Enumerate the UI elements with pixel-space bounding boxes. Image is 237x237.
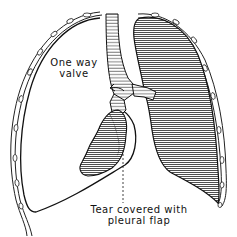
one-way-valve-label: One way valve [46,57,102,79]
diagram-canvas: One way valve Tear covered with pleural … [0,0,237,237]
tear-label-line1: Tear covered with [74,204,204,215]
pneumothorax-illustration [0,0,237,237]
valve-label-line2: valve [46,68,102,79]
valve-label-line1: One way [46,57,102,68]
tear-label-line2: pleural flap [74,215,204,226]
tear-label: Tear covered with pleural flap [74,204,204,226]
right-lung [134,17,219,203]
left-chest-wall [11,12,102,236]
collapsed-left-lung [80,110,127,176]
